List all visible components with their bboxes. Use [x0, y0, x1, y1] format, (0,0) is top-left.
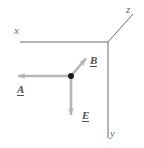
vector-b-arrow	[71, 59, 86, 77]
vector-diagram: x z y A B E	[0, 0, 144, 148]
axis-label-x: x	[14, 25, 19, 36]
vector-arrows	[18, 59, 86, 116]
axis-label-z: z	[126, 4, 130, 15]
vector-label-e: E	[82, 110, 89, 122]
axis-z-line	[108, 14, 133, 42]
vector-label-b: B	[90, 55, 97, 67]
field-point-marker	[68, 73, 74, 79]
diagram-canvas	[0, 0, 144, 148]
axis-label-y: y	[110, 128, 115, 139]
vector-label-a: A	[17, 84, 24, 96]
